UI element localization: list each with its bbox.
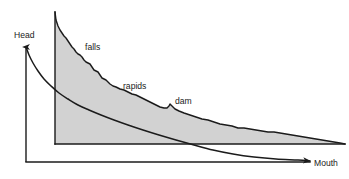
falls-annotation-label: falls <box>85 42 100 52</box>
rapids-annotation-label: rapids <box>123 81 146 91</box>
river-profile-shaded-area <box>55 12 345 144</box>
diagram-canvas: Head Mouth falls rapids dam <box>0 0 349 179</box>
river-profile-diagram: Head Mouth falls rapids dam <box>0 0 349 179</box>
river-profile-area-group <box>55 12 345 144</box>
head-axis-label: Head <box>14 30 35 40</box>
mouth-axis-label: Mouth <box>314 158 338 168</box>
dam-annotation-label: dam <box>175 96 192 106</box>
